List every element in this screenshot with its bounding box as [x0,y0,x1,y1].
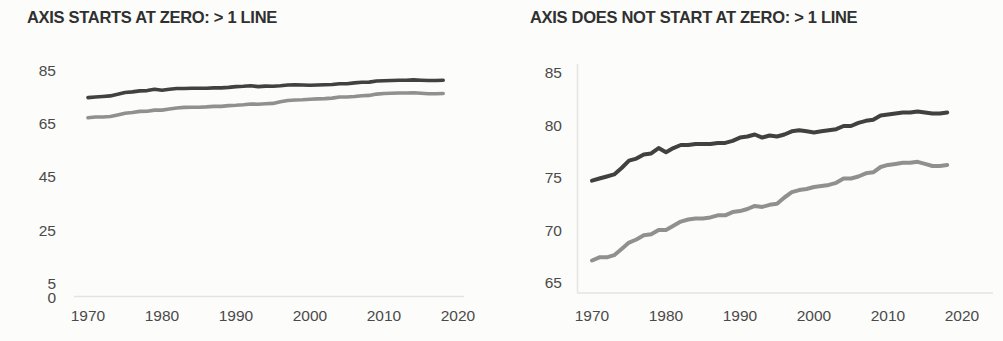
y-tick-label: 0 [47,289,56,306]
x-tick-label: 2010 [367,307,402,324]
x-tick-label: 2020 [945,307,980,324]
y-tick-label: 65 [545,274,562,291]
x-tick-label: 2000 [293,307,328,324]
y-tick-label: 75 [545,169,562,186]
chart-axis-starts-at-zero: 8565452550197019801990200020102020 [39,62,476,324]
y-tick-label: 25 [39,222,56,239]
x-tick-label: 2010 [871,307,906,324]
y-tick-label: 45 [39,168,56,185]
x-tick-label: 1980 [649,307,684,324]
chart-axis-does-not-start-at-zero: 8580757065197019801990200020102020 [545,64,993,324]
x-tick-label: 2020 [441,307,476,324]
page: AXIS STARTS AT ZERO: > 1 LINE AXIS DOES … [0,0,1003,341]
y-tick-label: 80 [545,117,563,134]
y-tick-label: 85 [39,62,56,79]
x-tick-label: 1980 [145,307,180,324]
data-light-line [88,93,443,118]
x-tick-label: 2000 [797,307,832,324]
data-light-line [592,162,947,261]
x-tick-label: 1990 [219,307,254,324]
x-tick-label: 1970 [71,307,106,324]
data-dark-line [592,111,947,180]
y-tick-label: 85 [545,64,562,81]
x-tick-label: 1970 [575,307,610,324]
y-tick-label: 70 [545,222,563,239]
x-tick-label: 1990 [723,307,758,324]
charts-canvas: 8565452550197019801990200020102020 85807… [0,0,1003,341]
y-tick-label: 65 [39,115,56,132]
